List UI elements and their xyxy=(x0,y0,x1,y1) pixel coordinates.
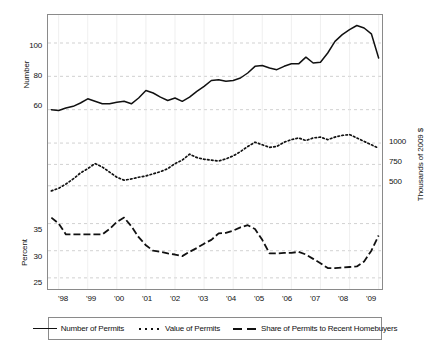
x-tick-08: '08 xyxy=(332,294,354,303)
y-tick-number-80: 80 xyxy=(22,71,42,80)
legend-swatch-dotted-icon xyxy=(137,328,161,330)
plot-area xyxy=(47,14,383,290)
legend-item-number-of-permits: Number of Permits xyxy=(33,324,124,333)
x-tick-02: '02 xyxy=(164,294,186,303)
y-tick-percent-30: 30 xyxy=(22,252,42,261)
x-tick-00: '00 xyxy=(108,294,130,303)
legend-swatch-solid-icon xyxy=(33,328,57,329)
y-tick-value-1000: 1000 xyxy=(389,137,406,146)
x-tick-01: '01 xyxy=(136,294,158,303)
y-tick-number-100: 100 xyxy=(22,41,42,50)
legend-swatch-dashed-icon xyxy=(233,328,257,330)
y-tick-percent-35: 35 xyxy=(22,225,42,234)
x-tick-06: '06 xyxy=(276,294,298,303)
y-tick-percent-25: 25 xyxy=(22,278,42,287)
x-tick-09: '09 xyxy=(360,294,382,303)
legend-label-share-of-permits: Share of Permits to Recent Homebuyers xyxy=(261,324,397,333)
y-tick-value-750: 750 xyxy=(389,157,402,166)
legend-item-share-of-permits: Share of Permits to Recent Homebuyers xyxy=(233,324,397,333)
x-tick-03: '03 xyxy=(192,294,214,303)
y-tick-value-500: 500 xyxy=(389,177,402,186)
legend: Number of Permits Value of Permits Share… xyxy=(48,317,382,340)
x-tick-05: '05 xyxy=(248,294,270,303)
legend-label-number-of-permits: Number of Permits xyxy=(61,324,124,333)
legend-item-value-of-permits: Value of Permits xyxy=(137,324,220,333)
x-tick-98: '98 xyxy=(52,294,74,303)
y-axis-title-value: Thousands of 2009 $ xyxy=(416,115,425,215)
x-tick-07: '07 xyxy=(304,294,326,303)
legend-label-value-of-permits: Value of Permits xyxy=(165,324,220,333)
x-tick-04: '04 xyxy=(220,294,242,303)
chart-figure: Number 100 80 60 1000 750 500 Thousands … xyxy=(0,0,439,348)
x-tick-99: '99 xyxy=(80,294,102,303)
y-tick-number-60: 60 xyxy=(22,101,42,110)
